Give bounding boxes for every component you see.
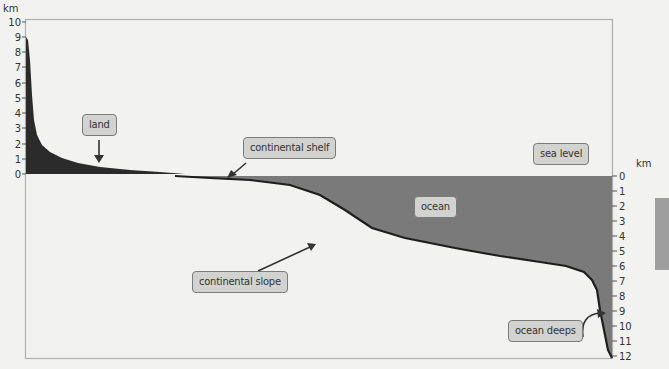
svg-text:4: 4 (15, 108, 21, 119)
svg-text:8: 8 (619, 291, 625, 302)
svg-text:12: 12 (619, 351, 632, 362)
svg-text:5: 5 (619, 246, 625, 257)
svg-text:6: 6 (619, 261, 625, 272)
slope-arrow (258, 247, 310, 271)
svg-text:1: 1 (619, 186, 625, 197)
svg-text:0: 0 (15, 169, 21, 180)
continental-shelf-label: continental shelf (243, 137, 336, 159)
svg-text:10: 10 (8, 17, 21, 28)
right-axis: km 0 1 2 3 4 5 6 7 8 9 10 11 12 (612, 158, 652, 362)
svg-text:6: 6 (15, 78, 21, 89)
svg-text:5: 5 (15, 93, 21, 104)
svg-text:7: 7 (15, 62, 21, 73)
svg-text:0: 0 (619, 171, 625, 182)
svg-text:2: 2 (15, 139, 21, 150)
land-arrowhead (94, 155, 104, 163)
svg-text:3: 3 (619, 216, 625, 227)
svg-text:1: 1 (15, 154, 21, 165)
ocean-label: ocean (414, 196, 457, 218)
page-edge-tab (655, 198, 669, 270)
svg-text:km: km (3, 3, 19, 14)
svg-text:8: 8 (15, 47, 21, 58)
hypsographic-diagram: km 10 9 8 7 6 5 4 3 2 1 0 km (0, 0, 669, 369)
svg-text:3: 3 (15, 123, 21, 134)
svg-text:9: 9 (619, 306, 625, 317)
svg-text:10: 10 (619, 321, 632, 332)
left-axis: km 10 9 8 7 6 5 4 3 2 1 0 (3, 3, 26, 180)
svg-text:4: 4 (619, 231, 625, 242)
continental-slope-label: continental slope (192, 271, 288, 293)
sea-level-label: sea level (533, 143, 589, 165)
svg-text:2: 2 (619, 201, 625, 212)
land-label: land (82, 114, 117, 136)
svg-text:km: km (636, 158, 652, 169)
svg-text:7: 7 (619, 276, 625, 287)
svg-text:11: 11 (619, 336, 632, 347)
ocean-deeps-label: ocean deeps (508, 320, 583, 342)
svg-text:9: 9 (15, 32, 21, 43)
land-area (26, 37, 185, 174)
deeps-arrow (583, 313, 600, 337)
